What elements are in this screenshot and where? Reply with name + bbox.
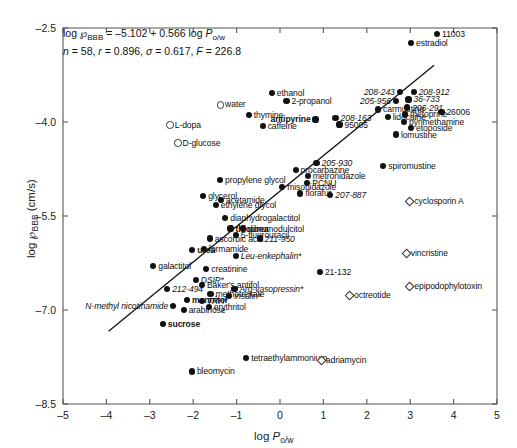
x-axis-tick-label: 3 <box>390 409 430 421</box>
point-marker-filled-circle <box>312 116 318 122</box>
point-label: arabinose <box>189 306 226 315</box>
x-axis-tick-label: –1 <box>217 409 257 421</box>
point-label: 26006 <box>446 108 469 117</box>
point-marker-filled-circle <box>293 167 299 173</box>
point-marker-filled-circle <box>199 282 205 288</box>
point-marker-filled-circle <box>243 355 249 361</box>
point-marker-filled-circle <box>260 123 266 129</box>
point-label: cyclosporin A <box>414 197 463 206</box>
regression-annotation: log ℘BBB = –5.102 + 0.566 log Po/w n = 5… <box>63 26 241 59</box>
point-label: ethylene glycol <box>221 200 276 209</box>
point-marker-filled-circle <box>207 235 213 241</box>
point-marker-open-circle <box>174 139 182 147</box>
point-label: vincristine <box>411 249 448 258</box>
x-axis-tick-label: –4 <box>86 409 126 421</box>
point-marker-filled-circle <box>201 246 207 252</box>
point-marker-filled-circle <box>397 89 403 95</box>
annotation-stats: n = 58, r = 0.896, σ = 0.617, F = 226.8 <box>63 44 241 59</box>
point-label: sucrose <box>168 319 200 328</box>
y-axis-tick-label: –7.0 <box>8 304 56 316</box>
point-marker-filled-circle <box>332 115 338 121</box>
point-marker-filled-circle <box>317 269 323 275</box>
annotation-equation: log ℘BBB = –5.102 + 0.566 log Po/w <box>63 26 241 44</box>
y-axis-tick-label: –2.5 <box>8 22 56 34</box>
point-label: water <box>225 100 246 109</box>
y-axis-tick-label: –5.5 <box>8 210 56 222</box>
point-label: lomustine <box>401 130 437 139</box>
x-axis-tick-label: –5 <box>43 409 83 421</box>
point-label: estradiol <box>416 39 448 48</box>
point-marker-filled-circle <box>217 177 223 183</box>
point-label: N-methyl nicotinamide <box>85 301 168 310</box>
point-marker-filled-circle <box>164 286 170 292</box>
point-marker-filled-circle <box>170 303 176 309</box>
point-label: 211-950 <box>265 234 295 243</box>
point-marker-filled-circle <box>393 131 399 137</box>
point-label: adriamycin <box>326 356 367 365</box>
point-label: epipodophylotoxin <box>414 282 482 291</box>
point-label: 95005 <box>344 120 367 129</box>
point-marker-filled-circle <box>283 98 289 104</box>
point-label: insulin* <box>234 292 261 301</box>
point-label: creatinine <box>211 265 247 274</box>
x-axis-tick-label: 1 <box>303 409 343 421</box>
point-marker-open-circle <box>166 121 174 129</box>
y-axis-tick-label: –4.0 <box>8 116 56 128</box>
point-label: octreotide <box>354 291 391 300</box>
point-marker-open-circle <box>217 101 225 109</box>
point-marker-filled-circle <box>385 114 391 120</box>
point-label: 2-propanol <box>292 96 332 105</box>
point-label: 207-887 <box>335 191 366 200</box>
point-marker-filled-circle <box>375 106 381 112</box>
point-label: D-glucose <box>183 138 221 147</box>
point-marker-filled-circle <box>213 202 219 208</box>
x-axis-tick-label: –3 <box>130 409 170 421</box>
x-axis-tick-label: 0 <box>260 409 300 421</box>
point-marker-filled-circle <box>193 277 199 283</box>
point-marker-filled-circle <box>393 98 399 104</box>
point-marker-filled-circle <box>257 235 263 241</box>
scatter-plot: log ℘BBB = –5.102 + 0.566 log Po/w n = 5… <box>0 0 517 448</box>
x-axis-title: log Po/w <box>254 430 293 445</box>
point-marker-filled-circle <box>181 307 187 313</box>
point-marker-filled-circle <box>189 368 195 374</box>
point-label: dianhydrogalactitol <box>230 214 300 223</box>
x-axis-tick-label: –2 <box>173 409 213 421</box>
x-axis-tick-label: 5 <box>477 409 517 421</box>
point-marker-filled-circle <box>233 253 239 259</box>
point-label: Leu-enkephalin* <box>241 252 302 261</box>
point-label: bleomycin <box>197 367 235 376</box>
point-marker-filled-circle <box>227 225 233 231</box>
point-marker-filled-circle <box>336 121 342 127</box>
point-label: caffeine <box>268 121 297 130</box>
point-marker-filled-circle <box>405 96 411 102</box>
x-axis-tick-label: 4 <box>434 409 474 421</box>
point-label: L-dopa <box>175 120 201 129</box>
point-label: galactitol <box>158 262 191 271</box>
point-label: thymine <box>254 111 283 120</box>
point-marker-filled-circle <box>246 112 252 118</box>
x-axis-tick-label: 2 <box>347 409 387 421</box>
point-label: 21-132 <box>325 267 351 276</box>
point-label: spiromustine <box>388 162 436 171</box>
point-label: propylene glycol <box>225 175 286 184</box>
point-marker-filled-circle <box>305 173 311 179</box>
point-marker-filled-circle <box>160 321 166 327</box>
